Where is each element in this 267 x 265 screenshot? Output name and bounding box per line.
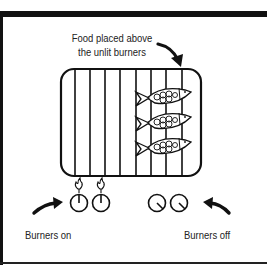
burner-knob-on-2 xyxy=(93,195,110,212)
arrow-left-icon xyxy=(203,197,229,213)
arrow-right-icon xyxy=(34,197,63,213)
diagram-illustration xyxy=(0,0,267,265)
burner-knob-off-1 xyxy=(149,195,166,212)
burners-on-label: Burners on xyxy=(25,229,71,242)
diagram-frame: Food placed above the unlit burners xyxy=(0,0,267,265)
burner-knob-on-1 xyxy=(71,195,88,212)
burner-knob-off-2 xyxy=(171,195,188,212)
flame-icon xyxy=(97,178,104,193)
arrow-down-right-icon xyxy=(158,44,183,67)
flame-icon xyxy=(75,178,82,193)
burners-off-label: Burners off xyxy=(184,229,230,242)
